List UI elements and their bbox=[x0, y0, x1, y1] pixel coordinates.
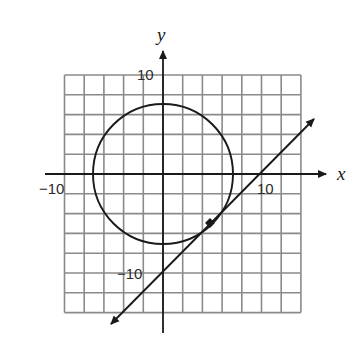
y-tick-neg10-label: −10 bbox=[117, 265, 142, 282]
graph-canvas: y x 10 −10 10 −10 bbox=[0, 0, 361, 352]
x-tick-neg10-label: −10 bbox=[39, 180, 64, 197]
x-axis-label: x bbox=[336, 163, 346, 184]
y-tick-10-label: 10 bbox=[137, 66, 154, 83]
y-axis-label: y bbox=[155, 24, 166, 45]
coordinate-plane-figure: y x 10 −10 10 −10 bbox=[0, 0, 361, 352]
x-tick-10-label: 10 bbox=[257, 180, 274, 197]
